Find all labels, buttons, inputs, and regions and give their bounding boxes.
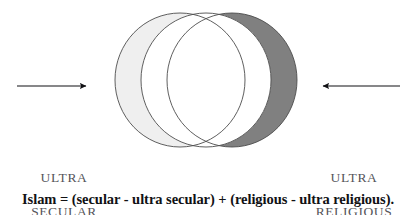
pole-label-ultra-religious-line1: ULTRA [298, 169, 410, 186]
figure-root: ULTRA SECULAR ULTRA RELIGIOUS Islam = (s… [0, 0, 416, 215]
figure-caption: Islam = (secular - ultra secular) + (rel… [0, 190, 416, 208]
venn-diagram [0, 0, 416, 152]
islam-center-circle [141, 13, 271, 147]
pole-label-ultra-secular-line1: ULTRA [8, 169, 120, 186]
